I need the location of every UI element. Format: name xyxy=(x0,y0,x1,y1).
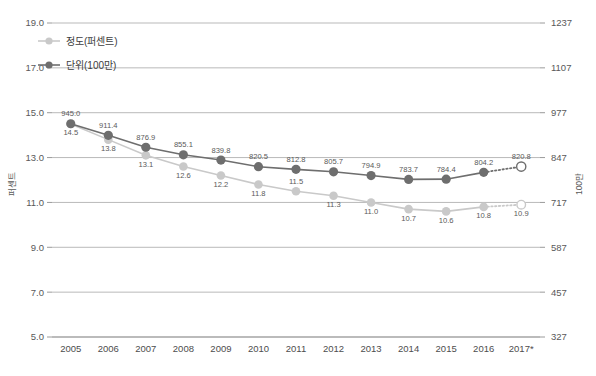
data-point-label: 783.7 xyxy=(399,165,418,174)
x-axis-tick-label: 2012 xyxy=(323,343,344,354)
data-point xyxy=(329,191,338,200)
data-point-projected xyxy=(517,200,526,209)
left-axis-tick-label: 17.0 xyxy=(26,62,45,73)
data-point xyxy=(442,175,451,184)
series-projection-line xyxy=(484,167,522,173)
data-point-label: 10.8 xyxy=(476,211,491,220)
legend-item[interactable]: 정도(퍼센트) xyxy=(38,36,118,47)
data-point-label: 13.8 xyxy=(101,144,116,153)
data-point-projected xyxy=(517,162,526,171)
data-point-label: 855.1 xyxy=(174,140,193,149)
legend-item-label: 정도(퍼센트) xyxy=(66,36,118,47)
x-axis-tick-label: 2008 xyxy=(173,343,194,354)
x-axis-tick-label: 2016 xyxy=(473,343,494,354)
x-axis-tick-label: 2017* xyxy=(509,343,534,354)
data-point-label: 804.2 xyxy=(474,158,493,167)
data-point xyxy=(479,168,488,177)
data-point-label: 10.7 xyxy=(401,214,416,223)
data-point-label: 10.6 xyxy=(439,216,454,225)
series-line xyxy=(71,124,484,180)
data-point xyxy=(179,162,188,171)
right-axis-tick-label: 587 xyxy=(551,242,567,253)
right-axis-tick-label: 1107 xyxy=(551,62,571,73)
data-point-label: 784.4 xyxy=(437,165,456,174)
data-point xyxy=(104,131,113,140)
legend-marker xyxy=(45,37,52,44)
data-point-label: 11.0 xyxy=(364,207,378,216)
data-point-label: 820.8 xyxy=(512,152,531,161)
right-axis: 12371107977847717587457327 xyxy=(540,17,572,342)
left-axis-title: 퍼센트 xyxy=(7,172,17,196)
right-axis-tick-label: 847 xyxy=(551,152,567,163)
data-point xyxy=(216,155,225,164)
data-point xyxy=(442,207,451,216)
x-axis-tick-label: 2010 xyxy=(248,343,269,354)
x-axis-tick-label: 2007 xyxy=(135,343,156,354)
data-point xyxy=(142,151,151,160)
x-axis-tick-label: 2013 xyxy=(361,343,382,354)
data-point-label: 839.8 xyxy=(211,146,230,155)
left-axis-tick-label: 9.0 xyxy=(31,242,44,253)
data-point-label: 794.9 xyxy=(362,161,381,170)
data-point xyxy=(367,198,376,207)
data-point-label: 10.9 xyxy=(514,209,529,218)
right-axis-tick-label: 977 xyxy=(551,107,567,118)
right-axis-tick-label: 457 xyxy=(551,287,567,298)
data-point-label: 911.4 xyxy=(99,121,117,130)
data-point xyxy=(329,167,338,176)
data-point-label: 13.1 xyxy=(138,160,153,169)
data-point xyxy=(404,175,413,184)
right-axis-title: 100만 xyxy=(574,173,584,195)
legend-marker xyxy=(45,61,52,68)
left-axis-tick-label: 5.0 xyxy=(31,331,44,342)
data-point xyxy=(254,180,263,189)
data-point xyxy=(66,119,75,128)
chart-legend: 정도(퍼센트)단위(100만) xyxy=(38,36,118,71)
data-point-label: 14.5 xyxy=(63,128,78,137)
data-point-label: 12.6 xyxy=(176,171,191,180)
data-point-label: 876.9 xyxy=(136,133,155,142)
data-point-label: 11.5 xyxy=(289,177,303,186)
data-point-label: 12.2 xyxy=(214,180,229,189)
left-axis-tick-label: 7.0 xyxy=(31,287,44,298)
series-projection-line xyxy=(484,205,522,207)
data-point xyxy=(366,171,375,180)
data-point xyxy=(479,203,488,212)
x-axis-tick-label: 2015 xyxy=(436,343,457,354)
chart-canvas: 19.017.015.013.011.09.07.05.012371107977… xyxy=(0,0,596,376)
line-chart: 19.017.015.013.011.09.07.05.012371107977… xyxy=(0,0,596,376)
right-axis-tick-label: 327 xyxy=(551,331,567,342)
x-axis-tick-label: 2014 xyxy=(398,343,419,354)
left-axis-tick-label: 19.0 xyxy=(26,17,45,28)
data-point-label: 11.3 xyxy=(326,200,340,209)
legend-item-label: 단위(100만) xyxy=(66,59,116,71)
data-point-label: 11.8 xyxy=(251,189,265,198)
left-axis-tick-label: 11.0 xyxy=(26,197,44,208)
data-point xyxy=(217,171,226,180)
data-point xyxy=(292,187,301,196)
data-point xyxy=(291,165,300,174)
series-2: 945.0911.4876.9855.1839.8820.5812.8805.7… xyxy=(61,109,530,184)
x-axis-tick-label: 2009 xyxy=(210,343,231,354)
x-axis-tick-label: 2006 xyxy=(98,343,119,354)
right-axis-tick-label: 717 xyxy=(551,197,567,208)
legend-item[interactable]: 단위(100만) xyxy=(38,59,116,71)
left-axis-tick-label: 13.0 xyxy=(26,152,45,163)
x-axis-labels: 2005200620072008200920102011201220132014… xyxy=(60,343,534,354)
right-axis-tick-label: 1237 xyxy=(551,17,572,28)
x-axis-tick-label: 2005 xyxy=(60,343,81,354)
data-point-label: 820.5 xyxy=(249,152,268,161)
left-axis-tick-label: 15.0 xyxy=(26,107,45,118)
x-axis-tick-label: 2011 xyxy=(286,343,306,354)
data-point xyxy=(179,150,188,159)
data-point xyxy=(141,143,150,152)
data-point-label: 945.0 xyxy=(61,109,80,118)
data-point-label: 812.8 xyxy=(286,155,305,164)
data-point xyxy=(404,205,413,214)
data-point xyxy=(254,162,263,171)
data-point-label: 805.7 xyxy=(324,157,343,166)
